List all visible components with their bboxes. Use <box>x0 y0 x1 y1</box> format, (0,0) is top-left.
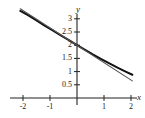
y-tick-label: 3 <box>43 15 72 23</box>
graph-figure: 0.511.522.53 -2-112 y x <box>0 0 145 118</box>
plot-canvas <box>0 0 145 118</box>
x-tick-label: -1 <box>36 103 64 111</box>
y-axis-label: y <box>76 5 80 14</box>
x-axis-label: x <box>137 93 141 102</box>
x-tick-label: 2 <box>117 103 145 111</box>
x-tick-label: -2 <box>9 103 37 111</box>
series-tangent-line <box>20 9 132 81</box>
data-series-group <box>20 9 132 81</box>
y-tick-label: 0.5 <box>43 81 72 89</box>
series-curve <box>20 11 132 75</box>
y-tick-label: 1.5 <box>43 54 72 62</box>
axis-lines <box>10 14 137 105</box>
y-tick-label: 2 <box>43 41 72 49</box>
y-tick-label: 1 <box>43 68 72 76</box>
x-tick-label: 1 <box>90 103 118 111</box>
y-tick-label: 2.5 <box>43 28 72 36</box>
